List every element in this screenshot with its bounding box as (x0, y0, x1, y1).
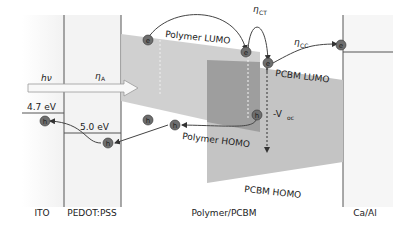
overlap-region (207, 60, 260, 132)
ito-workfunction-label: 4.7 eV (27, 102, 57, 112)
eta-ct-label: η CT (253, 4, 267, 16)
svg-text:e: e (339, 42, 343, 50)
svg-text:oc: oc (287, 114, 294, 121)
svg-text:-V: -V (273, 109, 283, 119)
svg-text:e: e (266, 60, 270, 68)
layer-label-ito: ITO (34, 208, 49, 218)
electron-carrier: e (241, 47, 251, 57)
svg-text:e: e (244, 49, 248, 57)
svg-text:h: h (106, 140, 110, 148)
hole-path-2 (115, 125, 168, 143)
layer-label-active: Polymer/PCBM (191, 208, 256, 218)
svg-text:h: h (173, 122, 177, 130)
hole-carrier: h (170, 120, 180, 130)
svg-text:h: h (255, 112, 259, 120)
svg-text:h: h (43, 118, 47, 126)
diagram-canvas: e e e e h h h h (0, 0, 414, 228)
svg-text:e: e (146, 37, 150, 45)
energy-level-diagram: e e e e h h h h (0, 0, 414, 228)
hole-carrier: h (143, 115, 153, 125)
hole-carrier: h (252, 110, 262, 120)
electron-carrier: e (336, 40, 346, 50)
photon-label: hν (41, 73, 52, 83)
pedot-workfunction-label: 5.0 eV (80, 122, 110, 132)
pcbm-homo-label: PCBM HOMO (244, 184, 302, 200)
layer-label-pedot: PEDOT:PSS (67, 208, 117, 218)
electron-carrier: e (263, 58, 273, 68)
hole-carrier: h (40, 116, 50, 126)
cathode-region (343, 15, 393, 207)
pedot-region (64, 15, 121, 207)
electron-carrier: e (143, 35, 153, 45)
hole-carrier: h (103, 138, 113, 148)
eta-cc-label: η CC (294, 37, 308, 49)
svg-text:h: h (146, 117, 150, 125)
layer-label-cathode: Ca/Al (353, 208, 377, 218)
svg-text:CC: CC (300, 42, 308, 49)
svg-text:CT: CT (259, 9, 267, 16)
